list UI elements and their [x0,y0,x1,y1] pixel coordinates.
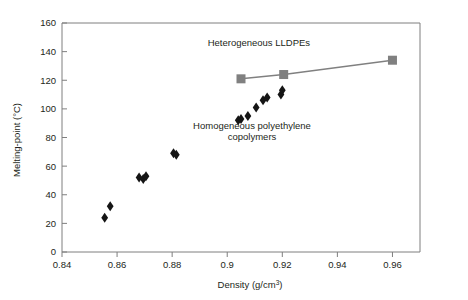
y-tick-label: 120 [40,75,56,86]
square-marker [237,74,246,83]
x-tick-label: 0.88 [163,259,182,270]
x-tick-label: 0.96 [383,259,402,270]
y-tick-label: 140 [40,46,56,57]
homogeneous-label-line1: Homogeneous polyethylene [193,120,311,131]
chart-figure: 0.840.860.880.90.920.940.96 020406080100… [0,0,468,300]
y-tick-label: 100 [40,103,56,114]
x-tick-label: 0.84 [53,259,72,270]
square-marker [388,56,397,65]
y-tick-label: 80 [45,132,56,143]
y-tick-label: 60 [45,161,56,172]
y-tick-label: 160 [40,17,56,28]
scatter-plot: 0.840.860.880.90.920.940.96 020406080100… [0,0,468,300]
y-tick-label: 0 [51,246,56,257]
heterogeneous-label: Heterogeneous LLDPEs [208,37,311,48]
y-tick-label: 20 [45,218,56,229]
square-marker [279,70,288,79]
x-tick-label: 0.86 [108,259,127,270]
y-tick-label: 40 [45,189,56,200]
y-axis-title: Melting-point (°C) [11,103,22,177]
homogeneous-label-line2: copolymers [228,131,277,142]
x-tick-label: 0.9 [221,259,234,270]
x-axis-title: Density (g/cm3) [218,279,283,291]
x-tick-label: 0.92 [273,259,292,270]
x-tick-label: 0.94 [328,259,347,270]
